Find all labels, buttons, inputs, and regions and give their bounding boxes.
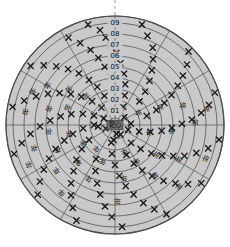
center-label: 靶心 [109,120,122,129]
ring-label-layer: 090807060504030201 [108,19,123,116]
ring-label: 09 [111,19,120,27]
ring-label: 03 [111,85,120,93]
ring-label: 06 [111,52,120,60]
ring-label: 04 [111,74,120,82]
ring-label: 08 [111,30,120,38]
ring-label: 07 [111,41,120,49]
polar-target-figure: 年年年年年年年年年年年年年年年年年年年年年年年年年年年年年年年年年年年 0908… [0,0,230,247]
ring-label: 01 [111,107,120,115]
ring-label: 05 [111,63,120,71]
polar-target-canvas: 年年年年年年年年年年年年年年年年年年年年年年年年年年年年年年年年年年年 0908… [0,0,230,247]
ring-label: 02 [111,96,120,104]
center-label-layer: 靶心 [107,120,123,130]
